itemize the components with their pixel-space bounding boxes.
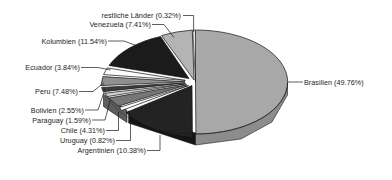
- label-venezuela: Venezuela (7.41%): [89, 20, 151, 29]
- label-peru: Peru (7.48%): [35, 87, 78, 96]
- label-kolumbien: Kolumbien (11.54%): [42, 37, 108, 46]
- leader-argentinien: [147, 135, 160, 151]
- label-uruguay: Uruguay (0.82%): [60, 136, 115, 145]
- pie-chart: Brasilien (49.76%) restliche Länder (0.3…: [0, 0, 392, 180]
- label-argentinien: Argentinien (10.38%): [77, 146, 146, 155]
- label-chile: Chile (4.31%): [61, 126, 105, 135]
- leader-peru: [79, 84, 103, 92]
- label-ecuador: Ecuador (3.84%): [25, 63, 80, 72]
- label-paraguay: Paraguay (1.59%): [32, 116, 91, 125]
- leader-bolivien: [85, 92, 104, 110]
- label-restliche-laender: restliche Länder (0.32%): [101, 11, 181, 20]
- label-bolivien: Bolivien (2.55%): [31, 106, 84, 115]
- label-brasilien: Brasilien (49.76%): [304, 78, 364, 87]
- leader-restliche-laender: [183, 16, 194, 33]
